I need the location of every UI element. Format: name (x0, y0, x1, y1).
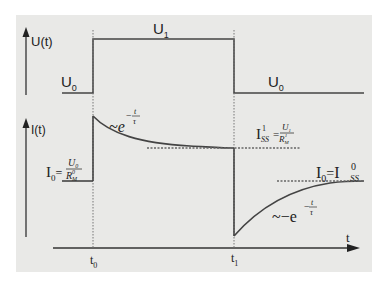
svg-text:τ: τ (133, 117, 137, 126)
voltage-axis: U(t) (23, 27, 53, 95)
pulse-response-diagram: U(t) U0 U1 U0 I(t) t t0 t1 (0, 0, 385, 284)
voltage-level-u0-right: U0 (268, 73, 284, 93)
current-axis-label: I(t) (31, 123, 46, 137)
svg-text:~e: ~e (109, 118, 125, 135)
svg-text:1: 1 (262, 124, 266, 133)
svg-text:SS: SS (261, 135, 269, 144)
svg-text:U1: U1 (282, 122, 291, 133)
recovery-annotation: ~−e − t τ (272, 198, 317, 225)
voltage-level-u1: U1 (153, 20, 169, 40)
decay-annotation: ~e − t τ (109, 107, 140, 135)
tick-t1: t1 (231, 251, 238, 268)
svg-text:U0: U0 (268, 73, 284, 93)
arrow-up-icon (23, 27, 30, 37)
voltage-pulse (62, 39, 364, 93)
time-axis: t (53, 230, 360, 252)
svg-text:t: t (134, 107, 137, 116)
voltage-axis-label: U(t) (31, 34, 53, 49)
arrow-up-icon (23, 118, 30, 128)
initial-current-formula: I0= U0 RM0 (46, 157, 82, 183)
time-axis-label: t (346, 230, 350, 245)
svg-text:~−e: ~−e (272, 208, 297, 225)
steady-state-0-formula: I0=I 0 SS (316, 161, 360, 184)
svg-text:0: 0 (351, 161, 356, 172)
svg-text:RM1: RM1 (278, 133, 290, 145)
arrow-right-icon (347, 244, 360, 252)
voltage-level-u0-left: U0 (61, 73, 77, 93)
svg-text:RM0: RM0 (65, 169, 78, 182)
tick-t0: t0 (90, 253, 97, 270)
svg-text:−: − (126, 110, 132, 121)
svg-text:t0: t0 (90, 253, 97, 270)
current-axis: I(t) (23, 118, 46, 237)
svg-text:U1: U1 (153, 20, 169, 40)
svg-text:U0: U0 (68, 157, 78, 169)
svg-text:I0=: I0= (46, 164, 63, 183)
svg-text:t1: t1 (231, 251, 238, 268)
svg-text:t: t (311, 198, 314, 207)
svg-text:U0: U0 (61, 73, 77, 93)
steady-state-1-formula: I 1 SS = U1 RM1 (256, 122, 294, 145)
svg-text:SS: SS (350, 173, 360, 183)
svg-text:τ: τ (310, 208, 314, 217)
